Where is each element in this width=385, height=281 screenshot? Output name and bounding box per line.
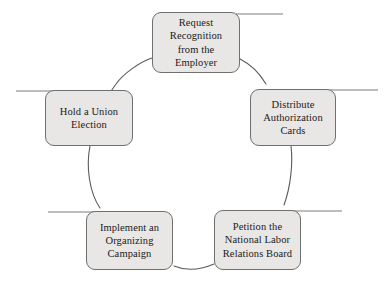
node-text-line: Petition the [219,220,296,233]
node-text-line: Authorization [255,111,331,124]
diagram-canvas: Request Recognition from the Employer Di… [0,0,385,281]
node-text-line: Implement an [91,221,168,234]
cycle-node-distribute-authorization-cards-label: Distribute Authorization Cards [255,98,331,138]
cycle-node-petition-nlrb[interactable]: Petition the National Labor Relations Bo… [214,210,301,270]
node-text-line: Cards [255,124,331,137]
cycle-node-hold-union-election-label: Hold a Union Election [50,105,128,131]
node-text-line: National Labor [219,233,296,246]
cycle-node-request-recognition[interactable]: Request Recognition from the Employer [152,12,240,73]
node-text-line: Relations Board [219,247,296,260]
cycle-node-petition-nlrb-label: Petition the National Labor Relations Bo… [219,220,296,260]
cycle-node-hold-union-election[interactable]: Hold a Union Election [45,90,133,146]
node-text-line: Distribute [255,98,331,111]
arc-petition-to-implement [174,264,214,269]
arc-distribute-to-petition [284,146,292,205]
arc-implement-to-hold [88,146,100,208]
cycle-node-distribute-authorization-cards[interactable]: Distribute Authorization Cards [250,89,336,146]
arc-request-to-distribute [240,59,266,84]
node-text-line: Recognition [157,29,235,42]
node-text-line: Campaign [91,247,168,260]
node-text-line: Election [50,118,128,131]
node-text-line: Hold a Union [50,105,128,118]
node-text-line: from the [157,43,235,56]
cycle-node-request-recognition-label: Request Recognition from the Employer [157,16,235,69]
node-text-line: Request [157,16,235,29]
node-text-line: Organizing [91,234,168,247]
node-text-line: Employer [157,56,235,69]
cycle-node-implement-organizing-campaign-label: Implement an Organizing Campaign [91,221,168,261]
cycle-node-implement-organizing-campaign[interactable]: Implement an Organizing Campaign [86,211,173,270]
